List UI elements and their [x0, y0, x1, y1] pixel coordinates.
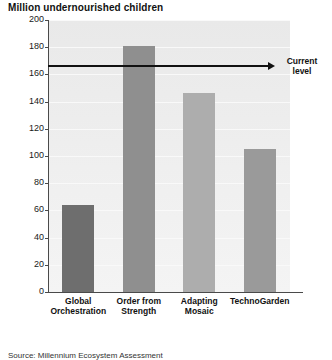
y-axis-tick-label-wrap: 60 — [0, 205, 44, 214]
y-axis-tick-label: 0 — [4, 287, 44, 296]
arrow-right-icon — [268, 62, 275, 70]
source-caption: Source: Millennium Ecosystem Assessment — [8, 351, 163, 360]
y-axis-tick-label: 140 — [4, 97, 44, 106]
x-axis-category-label-line: Mosaic — [185, 306, 214, 316]
y-axis-tick-label-wrap: 100 — [0, 151, 44, 160]
x-axis-category-label-line: Order from — [117, 296, 161, 306]
y-axis-tick-label: 180 — [4, 42, 44, 51]
chart-container: Million undernourished children 20018016… — [0, 0, 332, 360]
x-axis-category-label-line: TechnoGarden — [230, 296, 289, 306]
y-axis-tick-label: 200 — [4, 15, 44, 24]
bar[interactable] — [244, 149, 276, 292]
current-level-line — [48, 65, 268, 67]
x-axis-category-label: Order fromStrength — [109, 296, 170, 316]
y-axis-tick-label-wrap: 200 — [0, 15, 44, 24]
current-level-label-line: level — [293, 66, 312, 76]
x-axis-category-label-line: Global — [65, 296, 91, 306]
bar[interactable] — [183, 93, 215, 292]
y-axis-tick-label-wrap: 40 — [0, 233, 44, 242]
y-axis-tick-label: 20 — [4, 260, 44, 269]
y-axis-tick-label: 100 — [4, 151, 44, 160]
y-axis-tick-label: 60 — [4, 205, 44, 214]
y-axis-tick-label-wrap: 20 — [0, 260, 44, 269]
x-axis-category-label: GlobalOrchestration — [48, 296, 109, 316]
y-axis-tick-label-wrap: 80 — [0, 178, 44, 187]
y-axis-tick-label: 160 — [4, 69, 44, 78]
current-level-label: Currentlevel — [277, 56, 327, 76]
x-axis-category-label: TechnoGarden — [230, 296, 291, 306]
y-axis-tick-label-wrap: 140 — [0, 97, 44, 106]
x-axis-category-label-line: Orchestration — [50, 306, 106, 316]
bar[interactable] — [62, 205, 94, 292]
y-axis-tick-label: 40 — [4, 233, 44, 242]
bar[interactable] — [123, 46, 155, 292]
bars-layer — [48, 20, 290, 292]
x-axis-category-label-line: Strength — [121, 306, 156, 316]
y-axis-tick-label-wrap: 120 — [0, 124, 44, 133]
x-axis-category-label-line: Adapting — [181, 296, 218, 306]
chart-title: Million undernourished children — [8, 2, 163, 13]
y-axis-tick-label-wrap: 160 — [0, 69, 44, 78]
y-axis-tick-label: 80 — [4, 178, 44, 187]
x-axis-line — [48, 292, 303, 293]
y-axis-tick-label-wrap: 180 — [0, 42, 44, 51]
y-axis-tick-label-wrap: 0 — [0, 287, 44, 296]
y-axis-tick-label: 120 — [4, 124, 44, 133]
x-axis-category-label: AdaptingMosaic — [169, 296, 230, 316]
current-level-label-line: Current — [287, 56, 318, 66]
